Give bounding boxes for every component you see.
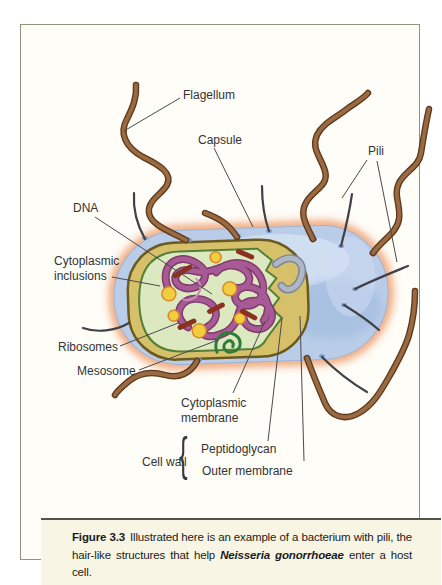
figure-caption: Figure 3.3Illustrated here is an example…: [41, 518, 441, 585]
cell-body: [112, 223, 391, 366]
caption-figure-number: Figure 3.3: [72, 531, 125, 543]
caption-species-name: Neisseria gonorrhoeae: [220, 549, 344, 561]
label-cytoplasmic-membrane: Cytoplasmic membrane: [181, 396, 246, 425]
cell-wall-brace: {: [179, 430, 188, 477]
label-capsule: Capsule: [198, 133, 242, 148]
figure-panel: Flagellum Capsule Pili DNA Cytoplasmic i…: [20, 24, 420, 560]
label-pili: Pili: [368, 144, 384, 159]
label-flagellum: Flagellum: [183, 88, 235, 103]
label-dna: DNA: [73, 201, 98, 216]
label-cytoplasmic-inclusions: Cytoplasmic inclusions: [54, 254, 119, 283]
label-ribosomes: Ribosomes: [58, 340, 118, 355]
leader-pili-1: [342, 160, 367, 198]
caption-text: Figure 3.3Illustrated here is an example…: [72, 529, 412, 582]
label-peptidoglycan: Peptidoglycan: [201, 442, 276, 457]
leader-capsule: [214, 148, 253, 227]
label-outer-membrane: Outer membrane: [202, 464, 293, 479]
label-mesosome: Mesosome: [77, 364, 136, 379]
